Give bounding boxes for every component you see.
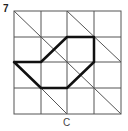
- figure-caption: C: [63, 117, 70, 128]
- grid-figure: [0, 0, 128, 131]
